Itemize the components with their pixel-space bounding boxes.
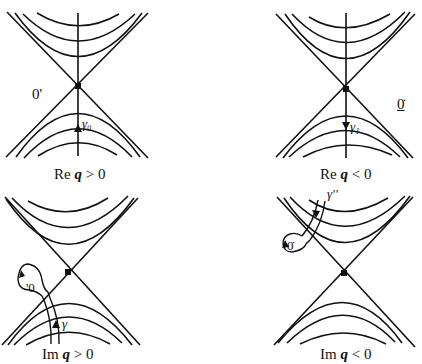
path-label: γ₁ [350, 119, 360, 135]
saddle-point [341, 270, 347, 276]
saddle-point [75, 83, 81, 89]
path-label: γ [62, 316, 67, 332]
path-label: γ'' [327, 186, 338, 202]
arrow-up-icon [74, 124, 82, 132]
caption-prefix: Re [54, 166, 71, 182]
panel-im-q-positive [2, 196, 140, 345]
panel-re-q-positive [6, 12, 148, 158]
level-curve [28, 198, 108, 212]
panel-re-q-negative [276, 12, 415, 158]
caption-variable: q [62, 346, 70, 362]
caption-relation: > 0 [70, 346, 93, 362]
caption-relation: < 0 [348, 166, 371, 182]
path-label: γ₀ [82, 116, 92, 132]
panel-caption: Im q > 0 [42, 346, 93, 363]
saddle-point [343, 86, 349, 92]
caption-variable: q [74, 166, 82, 182]
level-curve [23, 14, 135, 41]
level-curve [26, 332, 110, 345]
arrow-down-icon [342, 122, 350, 130]
point-label: '0 [26, 280, 35, 296]
level-curve [300, 333, 386, 344]
arrow-up-icon [52, 320, 60, 328]
level-curve [8, 304, 132, 346]
caption-prefix: Im [320, 346, 337, 362]
caption-variable: q [340, 166, 348, 182]
level-curve [289, 131, 400, 158]
level-curve [6, 198, 134, 244]
level-curve [309, 198, 388, 212]
caption-relation: > 0 [82, 166, 105, 182]
point-label: 0' [32, 86, 42, 103]
saddle-point [65, 269, 71, 275]
point-label: 0̇ [287, 238, 294, 254]
caption-variable: q [340, 346, 348, 362]
point-label: 0̇ [397, 96, 405, 113]
asymptote-line [5, 197, 140, 345]
panel-im-q-negative [274, 196, 415, 347]
caption-prefix: Im [42, 346, 59, 362]
level-curve [278, 303, 402, 344]
level-curve [285, 12, 410, 59]
panel-caption: Im q < 0 [320, 346, 371, 363]
caption-prefix: Re [320, 166, 337, 182]
panel-caption: Re q < 0 [320, 166, 371, 183]
level-curve [14, 317, 122, 345]
level-curve [303, 145, 392, 157]
panel-caption: Re q > 0 [54, 166, 105, 183]
caption-relation: < 0 [348, 346, 371, 362]
level-curve [287, 315, 395, 343]
level-curve [309, 14, 390, 28]
